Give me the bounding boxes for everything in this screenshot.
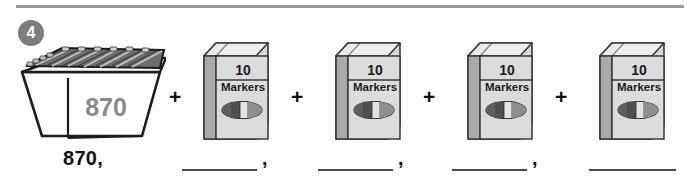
answer-blank-comma-3: , [532,147,538,170]
sequence-start-value: 870, [63,147,103,170]
marker-box-2: 10 Markers [332,38,406,140]
equation-strip: 870 + 10 Markers + [0,28,687,140]
plus-sign-2: + [291,86,303,107]
marker-box-1: 10 Markers [200,38,274,140]
plus-sign-1: + [169,86,181,107]
answer-sequence-row: 870, , , , [0,142,687,185]
marker-box-item-2: Markers [346,81,404,93]
marker-box-count-3: 10 [482,62,532,78]
answer-blank-line-4[interactable] [589,169,676,171]
marker-box-count-4: 10 [614,62,664,78]
answer-blank-comma-2: , [398,147,404,170]
marker-pen-glyph [222,102,262,119]
marker-box-count-1: 10 [218,62,268,78]
plus-sign-4: + [555,86,567,107]
answer-blank-comma-1: , [262,147,268,170]
marker-pen-glyph [618,102,658,119]
answer-blank-1[interactable]: , [182,147,274,173]
marker-box-item-3: Markers [478,81,536,93]
answer-blank-line-1[interactable] [182,169,257,171]
marker-pen-glyph [354,102,394,119]
answer-blank-line-2[interactable] [318,169,393,171]
top-divider-rule [16,5,684,8]
marker-box-4: 10 Markers [596,38,670,140]
answer-blank-4[interactable] [589,147,681,173]
marker-box-item-1: Markers [214,81,272,93]
bin-icon: 870 [16,44,166,144]
bin-label-text: 870 [85,93,127,121]
answer-blank-2[interactable]: , [318,147,410,173]
answer-blank-line-3[interactable] [452,169,527,171]
marker-pen-glyph [486,102,526,119]
answer-blank-3[interactable]: , [452,147,544,173]
marker-bin: 870 [16,44,166,144]
marker-box-count-2: 10 [350,62,400,78]
marker-box-3: 10 Markers [464,38,538,140]
marker-box-item-4: Markers [610,81,668,93]
plus-sign-3: + [423,86,435,107]
